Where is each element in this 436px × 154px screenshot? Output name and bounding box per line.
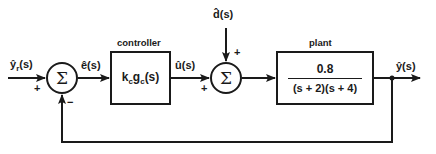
sum2-plus-left-sign: + [201,82,207,94]
plant-block: 0.8 (s + 2)(s + 4) [276,51,374,105]
error-signal-label: ê(s) [81,59,101,71]
reference-symbol: ŷ [10,58,16,70]
reference-arg: (s) [19,58,32,70]
plant-transfer-function: 0.8 (s + 2)(s + 4) [288,62,362,94]
plant-numerator: 0.8 [317,62,334,78]
reference-signal-label: ŷr(s) [10,58,33,73]
summing-junction-1: Σ [46,62,78,94]
sigma-symbol: Σ [56,68,68,88]
plant-denominator: (s + 2)(s + 4) [293,79,357,94]
sum2-plus-top-sign: + [234,46,240,58]
sigma-symbol: Σ [220,68,232,88]
plant-caption: plant [309,37,332,48]
control-signal-label: û(s) [175,59,195,71]
disturbance-signal-label: d̂(s) [213,8,233,20]
sum1-plus-sign: + [34,82,40,94]
controller-transfer-function: kcgc(s) [122,70,160,86]
sum1-minus-sign: − [67,96,73,108]
controller-caption: controller [117,37,161,48]
output-signal-label: ŷ(s) [396,60,416,72]
summing-junction-2: Σ [210,62,242,94]
controller-block: kcgc(s) [110,51,171,105]
